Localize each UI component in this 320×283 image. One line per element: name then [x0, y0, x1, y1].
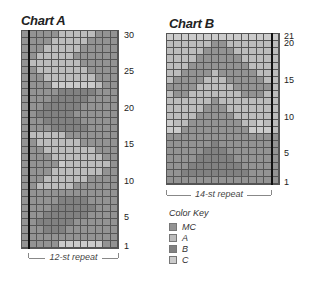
stitch-cell — [227, 91, 234, 98]
stitch-cell — [219, 105, 226, 112]
stitch-cell — [66, 226, 73, 233]
stitch-cell — [37, 234, 44, 241]
stitch-cell — [29, 205, 36, 212]
stitch-cell — [249, 91, 256, 98]
stitch-cell — [52, 125, 59, 132]
stitch-cell — [37, 241, 44, 248]
stitch-cell — [182, 148, 189, 155]
stitch-cell — [234, 155, 241, 162]
stitch-cell — [182, 177, 189, 184]
stitch-cell — [44, 205, 51, 212]
stitch-cell — [88, 53, 95, 60]
stitch-cell — [197, 48, 204, 55]
stitch-cell — [103, 53, 110, 60]
stitch-cell — [212, 120, 219, 127]
stitch-cell — [96, 154, 103, 161]
stitch-cell — [111, 118, 118, 125]
stitch-cell — [111, 96, 118, 103]
stitch-cell — [52, 147, 59, 154]
stitch-cell — [189, 84, 196, 91]
stitch-cell — [234, 63, 241, 70]
chart-b-grid — [166, 33, 280, 185]
stitch-cell — [197, 120, 204, 127]
stitch-cell — [81, 234, 88, 241]
stitch-cell — [103, 31, 110, 38]
stitch-cell — [96, 176, 103, 183]
stitch-cell — [234, 55, 241, 62]
stitch-cell — [257, 170, 264, 177]
stitch-cell — [174, 55, 181, 62]
stitch-cell — [74, 147, 81, 154]
stitch-cell — [174, 34, 181, 41]
stitch-cell — [66, 183, 73, 190]
stitch-cell — [29, 176, 36, 183]
stitch-cell — [257, 48, 264, 55]
stitch-cell — [197, 70, 204, 77]
stitch-cell — [59, 168, 66, 175]
stitch-cell — [219, 70, 226, 77]
stitch-cell — [197, 177, 204, 184]
stitch-cell — [219, 77, 226, 84]
stitch-cell — [66, 82, 73, 89]
stitch-cell — [44, 161, 51, 168]
stitch-cell — [242, 91, 249, 98]
stitch-cell — [66, 212, 73, 219]
stitch-cell — [234, 77, 241, 84]
chart-a-repeat: 12-st repeat — [28, 251, 119, 263]
stitch-cell — [44, 212, 51, 219]
stitch-cell — [88, 67, 95, 74]
stitch-cell — [257, 55, 264, 62]
stitch-cell — [81, 82, 88, 89]
stitch-cell — [227, 170, 234, 177]
stitch-cell — [29, 183, 36, 190]
stitch-cell — [212, 41, 219, 48]
stitch-cell — [234, 113, 241, 120]
stitch-cell — [103, 60, 110, 67]
stitch-cell — [182, 134, 189, 141]
stitch-cell — [37, 45, 44, 52]
stitch-cell — [103, 38, 110, 45]
stitch-cell — [96, 147, 103, 154]
stitch-cell — [189, 127, 196, 134]
stitch-cell — [197, 77, 204, 84]
stitch-cell — [74, 154, 81, 161]
stitch-cell — [174, 113, 181, 120]
stitch-cell — [59, 241, 66, 248]
stitch-cell — [234, 120, 241, 127]
stitch-cell — [103, 183, 110, 190]
stitch-cell — [197, 105, 204, 112]
stitch-cell — [242, 70, 249, 77]
stitch-cell — [111, 197, 118, 204]
stitch-cell — [96, 168, 103, 175]
stitch-cell — [242, 113, 249, 120]
stitch-cell — [59, 197, 66, 204]
stitch-cell — [52, 139, 59, 146]
stitch-cell — [212, 77, 219, 84]
stitch-cell — [44, 82, 51, 89]
stitch-cell — [249, 127, 256, 134]
stitch-cell — [219, 48, 226, 55]
stitch-cell — [111, 111, 118, 118]
stitch-cell — [88, 183, 95, 190]
stitch-cell — [103, 89, 110, 96]
stitch-cell — [103, 197, 110, 204]
stitch-cell — [174, 155, 181, 162]
stitch-cell — [103, 205, 110, 212]
stitch-cell — [66, 241, 73, 248]
stitch-cell — [66, 205, 73, 212]
color-key: Color Key MC A B C — [169, 208, 209, 265]
stitch-cell — [81, 31, 88, 38]
stitch-cell — [227, 177, 234, 184]
stitch-cell — [81, 154, 88, 161]
stitch-cell — [37, 82, 44, 89]
stitch-cell — [227, 41, 234, 48]
stitch-cell — [103, 226, 110, 233]
stitch-cell — [182, 155, 189, 162]
stitch-cell — [249, 141, 256, 148]
stitch-cell — [111, 161, 118, 168]
stitch-cell — [37, 74, 44, 81]
stitch-cell — [81, 53, 88, 60]
stitch-cell — [29, 168, 36, 175]
stitch-cell — [59, 60, 66, 67]
stitch-cell — [44, 53, 51, 60]
